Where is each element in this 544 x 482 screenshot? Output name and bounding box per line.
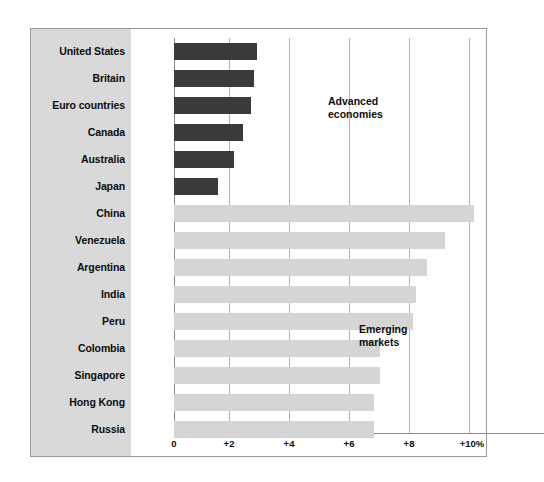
category-label-britain: Britain: [31, 65, 125, 92]
bar-india: [174, 286, 416, 303]
category-label-united-states: United States: [31, 38, 125, 65]
table-row: Britain: [131, 65, 486, 92]
bar-singapore: [174, 367, 380, 384]
bar-euro-countries: [174, 97, 251, 114]
bar-colombia: [174, 340, 380, 357]
category-label-russia: Russia: [31, 416, 125, 443]
table-row: Russia: [131, 416, 486, 443]
table-row: Australia: [131, 146, 486, 173]
bar-united-states: [174, 43, 257, 60]
table-row: Hong Kong: [131, 389, 486, 416]
table-row: Peru: [131, 308, 486, 335]
table-row: Argentina: [131, 254, 486, 281]
category-label-hong-kong: Hong Kong: [31, 389, 125, 416]
category-label-india: India: [31, 281, 125, 308]
x-tick-label-8: +8: [404, 438, 415, 449]
category-label-peru: Peru: [31, 308, 125, 335]
bar-japan: [174, 178, 218, 195]
table-row: Venezuela: [131, 227, 486, 254]
bar-russia: [174, 421, 374, 438]
category-label-china: China: [31, 200, 125, 227]
table-row: Euro countries: [131, 92, 486, 119]
table-row: Singapore: [131, 362, 486, 389]
category-label-japan: Japan: [31, 173, 125, 200]
x-tick-label-6: +6: [344, 438, 355, 449]
category-label-colombia: Colombia: [31, 335, 125, 362]
x-tick-label-2: +2: [224, 438, 235, 449]
category-label-euro-countries: Euro countries: [31, 92, 125, 119]
table-row: Canada: [131, 119, 486, 146]
table-row: United States: [131, 38, 486, 65]
bar-britain: [174, 70, 254, 87]
category-label-canada: Canada: [31, 119, 125, 146]
annotation-advanced-economies: Advanced economies: [328, 95, 383, 121]
category-label-australia: Australia: [31, 146, 125, 173]
table-row: India: [131, 281, 486, 308]
bar-argentina: [174, 259, 427, 276]
x-tick-label-10: +10%: [460, 438, 485, 449]
category-label-singapore: Singapore: [31, 362, 125, 389]
table-row: Japan: [131, 173, 486, 200]
category-label-venezuela: Venezuela: [31, 227, 125, 254]
x-tick-label-4: +4: [284, 438, 295, 449]
bar-venezuela: [174, 232, 445, 249]
table-row: Colombia: [131, 335, 486, 362]
x-tick-label-0: 0: [171, 438, 176, 449]
bar-hong-kong: [174, 394, 374, 411]
category-label-argentina: Argentina: [31, 254, 125, 281]
plot-area: United States Britain Euro countries Can…: [131, 29, 486, 456]
bar-australia: [174, 151, 234, 168]
bar-canada: [174, 124, 243, 141]
annotation-emerging-markets: Emerging markets: [359, 323, 407, 349]
chart-figure: United States Britain Euro countries Can…: [30, 28, 487, 457]
table-row: China: [131, 200, 486, 227]
bar-china: [174, 205, 474, 222]
